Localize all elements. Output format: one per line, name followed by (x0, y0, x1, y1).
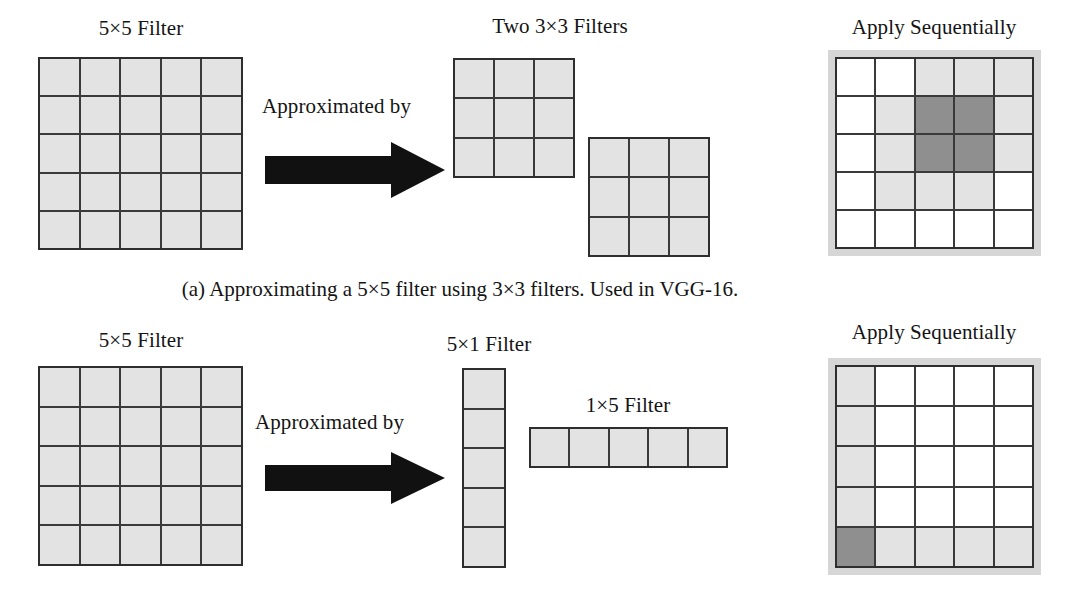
grid-cell (121, 368, 160, 406)
grid-cell (955, 97, 992, 133)
grid-cell (81, 97, 120, 133)
grid-cell (995, 407, 1032, 445)
grid-cell (630, 178, 668, 215)
panel-b-filter-horizontal-grid (529, 427, 728, 468)
grid-cell (162, 59, 201, 95)
grid-cell (630, 218, 668, 255)
grid-cell (121, 135, 160, 171)
grid-cell (837, 447, 874, 485)
grid-cell (40, 368, 79, 406)
panel-a-target-label: Two 3×3 Filters (492, 16, 628, 37)
grid-cell (162, 447, 201, 485)
grid-cell (955, 447, 992, 485)
panel-a-source-grid (38, 57, 243, 250)
grid-cell (81, 526, 120, 564)
grid-cell (162, 368, 201, 406)
grid-cell (590, 178, 628, 215)
arrow-right-icon-2 (265, 452, 445, 504)
grid-cell (202, 408, 241, 446)
grid-cell (995, 528, 1032, 566)
grid-cell (837, 97, 874, 133)
grid-cell (495, 139, 533, 176)
grid-cell (689, 429, 726, 466)
grid-cell (916, 407, 953, 445)
panel-b-result-label: Apply Sequentially (852, 322, 1017, 343)
grid-cell (202, 97, 241, 133)
grid-cell (202, 174, 241, 210)
grid-cell (590, 139, 628, 176)
grid-cell (121, 174, 160, 210)
grid-cell (40, 59, 79, 95)
grid-cell (464, 449, 504, 487)
grid-cell (202, 212, 241, 248)
panel-a-filter-two-grid (588, 137, 710, 257)
grid-cell (995, 97, 1032, 133)
grid-cell (916, 367, 953, 405)
grid-cell (670, 139, 708, 176)
grid-cell (630, 139, 668, 176)
grid-cell (121, 487, 160, 525)
panel-b-source-grid (38, 366, 243, 566)
grid-cell (955, 528, 992, 566)
grid-cell (81, 447, 120, 485)
grid-cell (464, 410, 504, 448)
grid-cell (837, 135, 874, 171)
grid-cell (876, 59, 913, 95)
grid-cell (995, 447, 1032, 485)
grid-cell (916, 211, 953, 247)
grid-cell (916, 59, 953, 95)
grid-cell (916, 135, 953, 171)
panel-a-source-label: 5×5 Filter (99, 18, 184, 39)
grid-cell (121, 447, 160, 485)
grid-cell (955, 488, 992, 526)
grid-cell (464, 528, 504, 566)
grid-cell (876, 367, 913, 405)
grid-cell (40, 487, 79, 525)
grid-cell (955, 407, 992, 445)
grid-cell (837, 211, 874, 247)
grid-cell (837, 528, 874, 566)
panel-a-relation-label: Approximated by (262, 96, 411, 117)
grid-cell (81, 174, 120, 210)
grid-cell (81, 212, 120, 248)
grid-cell (202, 447, 241, 485)
grid-cell (916, 447, 953, 485)
grid-cell (455, 99, 493, 136)
grid-cell (464, 489, 504, 527)
grid-cell (837, 173, 874, 209)
grid-cell (40, 135, 79, 171)
grid-cell (955, 367, 992, 405)
figure-canvas: 5×5 Filter Approximated by Two 3×3 Filte… (0, 0, 1079, 596)
grid-cell (81, 487, 120, 525)
grid-cell (162, 135, 201, 171)
grid-cell (40, 174, 79, 210)
panel-b-filter-vertical-grid (462, 368, 506, 568)
grid-cell (876, 135, 913, 171)
grid-cell (202, 135, 241, 171)
grid-cell (202, 368, 241, 406)
grid-cell (455, 60, 493, 97)
panel-b-relation-label: Approximated by (255, 412, 404, 433)
grid-cell (916, 97, 953, 133)
grid-cell (162, 487, 201, 525)
grid-cell (995, 59, 1032, 95)
grid-cell (202, 487, 241, 525)
grid-cell (916, 528, 953, 566)
grid-cell (876, 488, 913, 526)
panel-b-filter-h-label: 1×5 Filter (586, 395, 671, 416)
grid-cell (121, 212, 160, 248)
grid-cell (531, 429, 568, 466)
grid-cell (995, 488, 1032, 526)
grid-cell (610, 429, 647, 466)
grid-cell (876, 528, 913, 566)
grid-cell (81, 368, 120, 406)
grid-cell (837, 407, 874, 445)
grid-cell (464, 370, 504, 408)
grid-cell (995, 367, 1032, 405)
grid-cell (837, 367, 874, 405)
grid-cell (121, 59, 160, 95)
grid-cell (955, 135, 992, 171)
grid-cell (162, 408, 201, 446)
grid-cell (81, 408, 120, 446)
grid-cell (995, 211, 1032, 247)
